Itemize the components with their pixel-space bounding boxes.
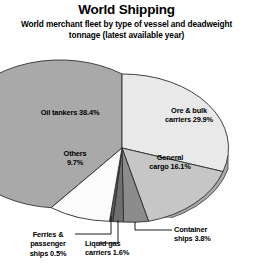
chart-page: World Shipping World merchant fleet by t…	[0, 0, 253, 275]
slice-label-general-cargo: General cargo 16.1%	[137, 153, 203, 171]
slice-label-ferries-passenger-ships: Ferries & passenger ships 0.5%	[20, 230, 76, 258]
chart-subtitle: World merchant fleet by type of vessel a…	[6, 19, 247, 40]
slice-label-liquid-gas-carriers: Liquid gas carriers 1.6%	[85, 239, 147, 258]
slice-label-container-ships: Container ships 3.8%	[174, 225, 244, 244]
slice-label-ore-bulk-carriers: Ore & bulk carriers 29.9%	[150, 106, 228, 124]
page-title: World Shipping	[0, 2, 253, 17]
slice-label-oil-tankers: Oil tankers 38.4%	[22, 108, 118, 117]
pie-chart: Oil tankers 38.4% Ore & bulk carriers 29…	[0, 44, 253, 275]
leader-container	[135, 222, 172, 230]
slice-label-others: Others 9.7%	[48, 149, 102, 167]
chart-header: World Shipping World merchant fleet by t…	[0, 2, 253, 40]
pie-top-face	[0, 60, 229, 222]
